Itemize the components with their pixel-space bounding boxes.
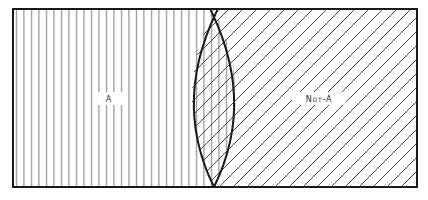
venn-diagram: A Not-A — [0, 0, 428, 200]
label-not-a: Not-A — [292, 92, 346, 105]
label-a: A — [95, 92, 123, 105]
label-not-a-text: Not-A — [306, 95, 333, 104]
label-a-text: A — [106, 95, 112, 104]
